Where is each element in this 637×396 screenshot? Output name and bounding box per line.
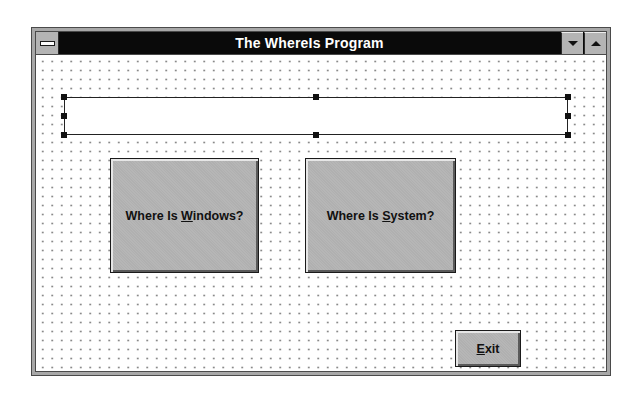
where-is-system-label: Where Is System? bbox=[327, 209, 435, 223]
system-menu-icon bbox=[40, 41, 55, 46]
resize-handle-bottom-left[interactable] bbox=[61, 132, 67, 138]
minimize-arrow-icon bbox=[568, 41, 578, 46]
where-is-windows-button[interactable]: Where Is Windows? bbox=[110, 158, 259, 273]
title-bar[interactable]: The WhereIs Program bbox=[36, 32, 606, 55]
exit-button[interactable]: Exit bbox=[455, 330, 521, 367]
maximize-arrow-icon bbox=[591, 41, 601, 46]
minimize-button[interactable] bbox=[561, 32, 583, 54]
resize-handle-middle-left[interactable] bbox=[61, 113, 67, 119]
result-textbox[interactable] bbox=[64, 97, 568, 135]
resize-handle-bottom-center[interactable] bbox=[313, 132, 319, 138]
resize-handle-top-right[interactable] bbox=[565, 94, 571, 100]
window-title: The WhereIs Program bbox=[59, 32, 560, 54]
form-window: The WhereIs Program Where Is Windows? Wh… bbox=[31, 27, 611, 376]
where-is-system-button[interactable]: Where Is System? bbox=[305, 158, 456, 273]
form-design-grid[interactable]: Where Is Windows? Where Is System? Exit bbox=[36, 55, 606, 371]
resize-handle-bottom-right[interactable] bbox=[565, 132, 571, 138]
exit-label: Exit bbox=[477, 342, 500, 356]
resize-handle-top-left[interactable] bbox=[61, 94, 67, 100]
resize-handle-top-center[interactable] bbox=[313, 94, 319, 100]
system-menu-button[interactable] bbox=[36, 32, 59, 54]
resize-handle-middle-right[interactable] bbox=[565, 113, 571, 119]
where-is-windows-label: Where Is Windows? bbox=[126, 209, 244, 223]
maximize-button[interactable] bbox=[584, 32, 606, 54]
